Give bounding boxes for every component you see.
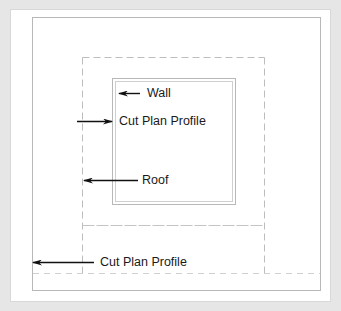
wall-label: Wall (147, 87, 171, 100)
roof-label: Roof (142, 174, 168, 187)
cut-plan-profile-outer-label: Cut Plan Profile (100, 256, 187, 269)
outer-boundary (33, 18, 321, 291)
roof-outline (83, 58, 265, 274)
wall-inner-line (116, 82, 233, 202)
wall-outer-line (113, 79, 236, 205)
cut-plan-profile-inner-label: Cut Plan Profile (119, 115, 206, 128)
